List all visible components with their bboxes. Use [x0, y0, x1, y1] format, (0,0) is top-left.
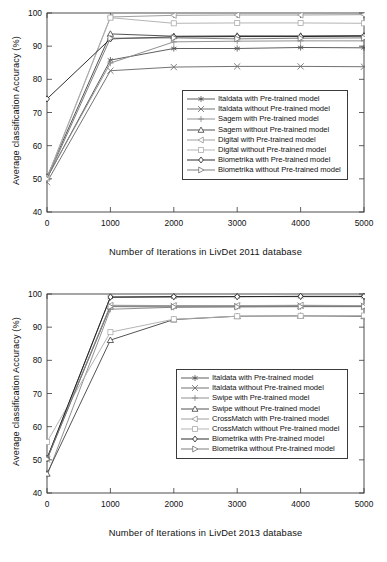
legend-label: Digital without Pre-trained model — [216, 145, 326, 155]
x-tick-label: 0 — [27, 499, 67, 509]
data-point-marker-square — [361, 21, 365, 26]
legend-item: CrossMatch without Pre-trained model — [180, 424, 343, 434]
y-tick-label: 70 — [16, 108, 42, 118]
legend-marker-triangle-left — [186, 135, 216, 145]
legend-item: Digital without Pre-trained model — [186, 145, 343, 155]
legend-marker-x — [186, 104, 216, 114]
data-point-marker-square — [108, 330, 113, 335]
legend-label: CrossMatch without Pre-trained model — [210, 424, 339, 434]
y-tick-label: 80 — [16, 74, 42, 84]
data-point-marker-triangle-right — [199, 167, 204, 173]
legend-livdet-2011: Italdata with Pre-trained modelItaldata … — [182, 90, 348, 180]
x-tick-label: 2000 — [154, 218, 194, 228]
legend-marker-asterisk — [186, 94, 216, 104]
legend-marker-square — [180, 424, 210, 434]
chart-panel-livdet-2013: Average classification Accuracy (%) Numb… — [0, 281, 387, 562]
data-point-marker-square — [193, 427, 198, 432]
x-tick-label: 4000 — [281, 499, 321, 509]
data-point-marker-square — [235, 314, 240, 319]
y-tick-label: 100 — [16, 289, 42, 299]
y-tick-label: 60 — [16, 141, 42, 151]
legend-item: Italdata without Pre-trained model — [180, 383, 343, 393]
legend-label: Swipe without Pre-trained model — [210, 404, 320, 414]
legend-item: Swipe without Pre-trained model — [180, 404, 343, 414]
x-tick-label: 5000 — [344, 218, 384, 228]
x-axis-label: Number of Iterations in LivDet 2011 data… — [46, 247, 365, 257]
legend-marker-triangle-right — [186, 165, 216, 175]
legend-item: Italdata without Pre-trained model — [186, 104, 343, 114]
legend-marker-square — [186, 145, 216, 155]
figure-container: Average classification Accuracy (%) Numb… — [0, 0, 387, 562]
legend-item: Italdata with Pre-trained model — [180, 373, 343, 383]
y-tick-label: 90 — [16, 41, 42, 51]
data-point-marker-triangle-left — [192, 416, 197, 422]
data-point-marker-square — [171, 21, 176, 26]
legend-item: Biometrika without Pre-trained model — [186, 165, 343, 175]
x-tick-label: 3000 — [217, 218, 257, 228]
data-point-marker-square — [171, 317, 176, 322]
y-tick-label: 40 — [16, 207, 42, 217]
legend-marker-plus — [186, 114, 216, 124]
legend-label: Digital with Pre-trained model — [216, 135, 316, 145]
legend-item: Italdata with Pre-trained model — [186, 94, 343, 104]
data-point-marker-diamond — [235, 294, 240, 300]
legend-label: CrossMatch with Pre-trained model — [210, 414, 329, 424]
data-point-marker-triangle-right — [193, 446, 198, 452]
legend-item: Sagem without Pre-trained model — [186, 125, 343, 135]
legend-label: Italdata without Pre-trained model — [210, 383, 324, 393]
data-point-marker-square — [298, 20, 303, 25]
legend-marker-diamond — [180, 434, 210, 444]
x-tick-label: 1000 — [90, 218, 130, 228]
legend-marker-x — [180, 383, 210, 393]
x-tick-label: 4000 — [281, 218, 321, 228]
x-tick-label: 0 — [27, 218, 67, 228]
y-tick-label: 50 — [16, 455, 42, 465]
y-tick-label: 80 — [16, 355, 42, 365]
legend-item: Biometrika with Pre-trained model — [186, 155, 343, 165]
chart-panel-livdet-2011: Average classification Accuracy (%) Numb… — [0, 0, 387, 281]
legend-livdet-2013: Italdata with Pre-trained modelItaldata … — [176, 369, 348, 459]
y-tick-label: 40 — [16, 488, 42, 498]
data-point-marker-plus — [198, 117, 204, 123]
legend-label: Biometrika with Pre-trained model — [210, 434, 324, 444]
data-point-marker-diamond — [193, 436, 198, 442]
legend-label: Biometrika without Pre-trained model — [216, 165, 341, 175]
legend-marker-triangle-left — [180, 414, 210, 424]
data-point-marker-square — [108, 15, 113, 20]
data-point-marker-square — [199, 148, 204, 153]
legend-label: Biometrika with Pre-trained model — [216, 155, 330, 165]
data-point-marker-square — [361, 313, 365, 318]
legend-marker-triangle — [180, 404, 210, 414]
legend-marker-triangle-right — [180, 444, 210, 454]
x-tick-label: 3000 — [217, 499, 257, 509]
y-tick-label: 100 — [16, 8, 42, 18]
x-tick-label: 2000 — [154, 499, 194, 509]
legend-item: Biometrika without Pre-trained model — [180, 444, 343, 454]
legend-label: Italdata without Pre-trained model — [216, 104, 330, 114]
x-tick-label: 5000 — [344, 499, 384, 509]
legend-item: Biometrika with Pre-trained model — [180, 434, 343, 444]
x-axis-label: Number of Iterations in LivDet 2013 data… — [46, 528, 365, 538]
legend-label: Italdata with Pre-trained model — [216, 94, 319, 104]
data-point-marker-diamond — [199, 157, 204, 163]
legend-label: Sagem without Pre-trained model — [216, 125, 329, 135]
legend-marker-asterisk — [180, 373, 210, 383]
y-tick-label: 70 — [16, 389, 42, 399]
legend-marker-plus — [180, 393, 210, 403]
y-tick-label: 50 — [16, 174, 42, 184]
legend-item: Sagem with Pre-trained model — [186, 114, 343, 124]
data-point-marker-diamond — [171, 294, 176, 300]
legend-marker-diamond — [186, 155, 216, 165]
data-point-marker-square — [235, 20, 240, 25]
y-tick-label: 90 — [16, 322, 42, 332]
legend-item: Swipe with Pre-trained model — [180, 393, 343, 403]
legend-label: Italdata with Pre-trained model — [210, 373, 313, 383]
data-point-marker-square — [46, 439, 50, 444]
legend-item: CrossMatch with Pre-trained model — [180, 414, 343, 424]
x-tick-label: 1000 — [90, 499, 130, 509]
y-tick-label: 60 — [16, 422, 42, 432]
data-point-marker-diamond — [108, 294, 113, 300]
legend-marker-triangle — [186, 125, 216, 135]
legend-label: Sagem with Pre-trained model — [216, 114, 319, 124]
data-point-marker-square — [298, 313, 303, 318]
